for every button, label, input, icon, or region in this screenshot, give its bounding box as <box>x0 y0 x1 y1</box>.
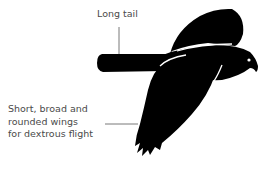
bird-silhouette-icon <box>0 0 262 169</box>
near-wing-shape <box>135 61 215 156</box>
eye-icon <box>247 58 250 61</box>
